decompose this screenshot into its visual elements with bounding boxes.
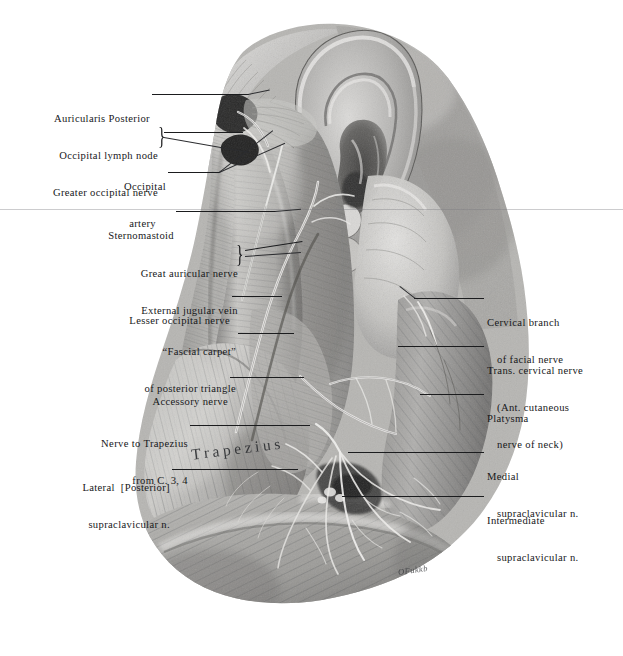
label-line: Platysma <box>487 413 607 425</box>
label-line: “Fascial carpet” <box>0 346 236 358</box>
label-line: Nerve to Trapezius <box>0 438 188 450</box>
anatomical-plate: Trapezius OFukkb Auricularis Posterior O… <box>0 0 623 656</box>
brace-great-auricular-group: } <box>236 241 243 266</box>
label-line: Accessory nerve <box>0 396 228 408</box>
label-line: Sternomastoid <box>0 230 174 242</box>
label-line: Auricularis Posterior <box>0 113 150 125</box>
label-intermediate-supraclavicular-n: Intermediate supraclavicular n. <box>487 490 621 589</box>
brace-occipital-group: } <box>158 123 165 148</box>
label-line: Lateral [Posterior] <box>0 482 170 494</box>
label-line: Trans. cervical nerve <box>487 365 621 377</box>
label-line: Medial <box>487 471 619 483</box>
label-line: supraclavicular n. <box>487 552 621 564</box>
label-platysma: Platysma <box>487 388 607 450</box>
label-line: Cervical branch <box>487 317 617 329</box>
label-lateral-posterior-supraclavicular-n: Lateral [Posterior] supraclavicular n. <box>0 457 170 556</box>
label-line: Intermediate <box>487 515 621 527</box>
label-line: Occipital <box>0 181 166 193</box>
label-line: Great auricular nerve <box>0 268 238 280</box>
label-line: supraclavicular n. <box>0 519 170 531</box>
